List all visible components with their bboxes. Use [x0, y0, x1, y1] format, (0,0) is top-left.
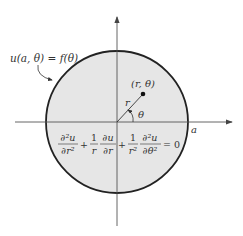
eq-equals-zero: = 0: [163, 139, 180, 150]
eq-term1-numerator: ∂²u: [61, 132, 76, 143]
angle-label: θ: [138, 109, 144, 120]
point-label: (r, θ): [131, 78, 155, 89]
eq-term2-numerator: ∂u: [102, 132, 113, 143]
eq-term3-coef-numerator: 1: [130, 132, 136, 143]
eq-term2-coef-numerator: 1: [91, 132, 97, 143]
boundary-condition-label: u(a, θ) = f(θ): [10, 52, 78, 64]
boundary-pointer-arrow-icon: [38, 65, 52, 80]
eq-term3-numerator: ∂²u: [143, 132, 158, 143]
eq-term3-denominator: ∂θ²: [143, 145, 158, 156]
eq-term3-coef-denominator: r²: [129, 145, 138, 156]
eq-plus-2: +: [118, 139, 126, 150]
eq-term1-denominator: ∂r²: [61, 145, 74, 156]
eq-plus-1: +: [80, 139, 88, 150]
eq-term2-denominator: ∂r: [103, 145, 114, 156]
dirichlet-disk-diagram: u(a, θ) = f(θ) (r, θ) r θ a ∂²u ∂r² + 1 …: [0, 0, 243, 236]
radius-value-label: a: [191, 124, 197, 135]
point-marker: [141, 92, 146, 97]
